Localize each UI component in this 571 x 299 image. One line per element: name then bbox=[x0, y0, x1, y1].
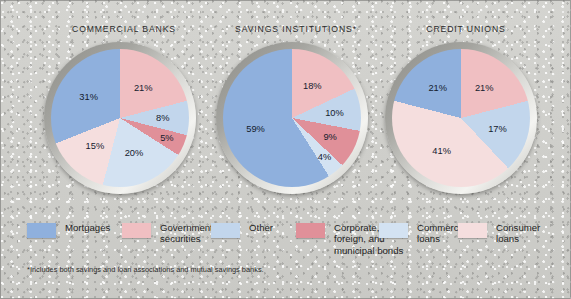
pie-disc bbox=[223, 49, 361, 187]
legend-item[interactable]: Governmentsecurities bbox=[122, 222, 213, 245]
charts-panel: COMMERCIAL BANKS SAVINGS INSTITUTIONS* C… bbox=[0, 0, 571, 299]
pie-chart-figure: COMMERCIAL BANKS SAVINGS INSTITUTIONS* C… bbox=[0, 0, 571, 299]
pie-chart-credit-unions: 21%17%41%21% bbox=[385, 42, 537, 194]
pie-slice-label: 59% bbox=[246, 124, 265, 134]
footnote: *Includes both savings and loan associat… bbox=[27, 265, 264, 274]
pie-slice-label: 8% bbox=[156, 113, 169, 123]
legend-swatch bbox=[27, 223, 56, 238]
legend-item[interactable]: Other bbox=[211, 222, 273, 238]
chart-title-2: CREDIT UNIONS bbox=[378, 24, 554, 34]
pie-chart-savings-institutions: 18%10%9%4%59% bbox=[216, 42, 368, 194]
legend-item[interactable]: Commercialloans bbox=[379, 222, 468, 245]
pie-slice-label: 15% bbox=[86, 141, 105, 151]
legend-swatch bbox=[379, 223, 408, 238]
pie-chart-commercial-banks: 21%8%5%20%15%31% bbox=[44, 42, 196, 194]
pie-slice-label: 41% bbox=[432, 146, 451, 156]
legend-label: Mortgages bbox=[65, 222, 110, 233]
chart-title-1: SAVINGS INSTITUTIONS* bbox=[196, 24, 396, 34]
pie-slice-label: 21% bbox=[134, 83, 153, 93]
legend-swatch bbox=[296, 223, 325, 238]
pie-slice-label: 20% bbox=[125, 148, 144, 158]
pie-slice-label: 4% bbox=[318, 152, 331, 162]
pie-slice-label: 9% bbox=[323, 132, 336, 142]
legend-item[interactable]: Consumerloans bbox=[458, 222, 540, 245]
pie-slice-label: 17% bbox=[488, 124, 507, 134]
legend-label: Consumerloans bbox=[496, 222, 540, 245]
chart-title-0: COMMERCIAL BANKS bbox=[34, 24, 214, 34]
pie-slice-label: 31% bbox=[79, 92, 98, 102]
pie-disc bbox=[392, 49, 530, 187]
legend-label: Other bbox=[249, 222, 273, 233]
legend-label: Governmentsecurities bbox=[160, 222, 213, 245]
pie-slice-label: 21% bbox=[475, 83, 494, 93]
legend-swatch bbox=[458, 223, 487, 238]
legend-swatch bbox=[122, 223, 151, 238]
pie-slice-label: 21% bbox=[428, 83, 447, 93]
legend-item[interactable]: Mortgages bbox=[27, 222, 110, 238]
pie-slice-label: 5% bbox=[160, 133, 173, 143]
pie-slice-label: 18% bbox=[303, 81, 322, 91]
legend-swatch bbox=[211, 223, 240, 238]
pie-slice-label: 10% bbox=[325, 108, 344, 118]
